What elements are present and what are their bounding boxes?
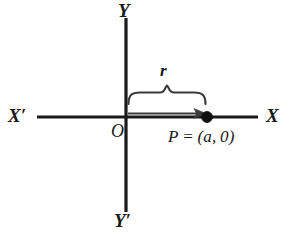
filled-dot-icon: [202, 112, 213, 123]
figure-canvas: [0, 0, 292, 237]
coordinate-axes-figure: Y Y′ X′ X O r P = (a, 0): [0, 0, 292, 237]
radius-label: r: [160, 62, 167, 79]
y-axis-negative-label: Y′: [114, 211, 131, 230]
x-axis-positive-label: X: [266, 106, 279, 125]
origin-label: O: [111, 122, 124, 140]
point-p-label: P = (a, 0): [168, 128, 235, 145]
curly-brace-icon: [129, 86, 206, 105]
y-axis-positive-label: Y: [118, 1, 130, 20]
x-axis-negative-label: X′: [8, 106, 26, 125]
